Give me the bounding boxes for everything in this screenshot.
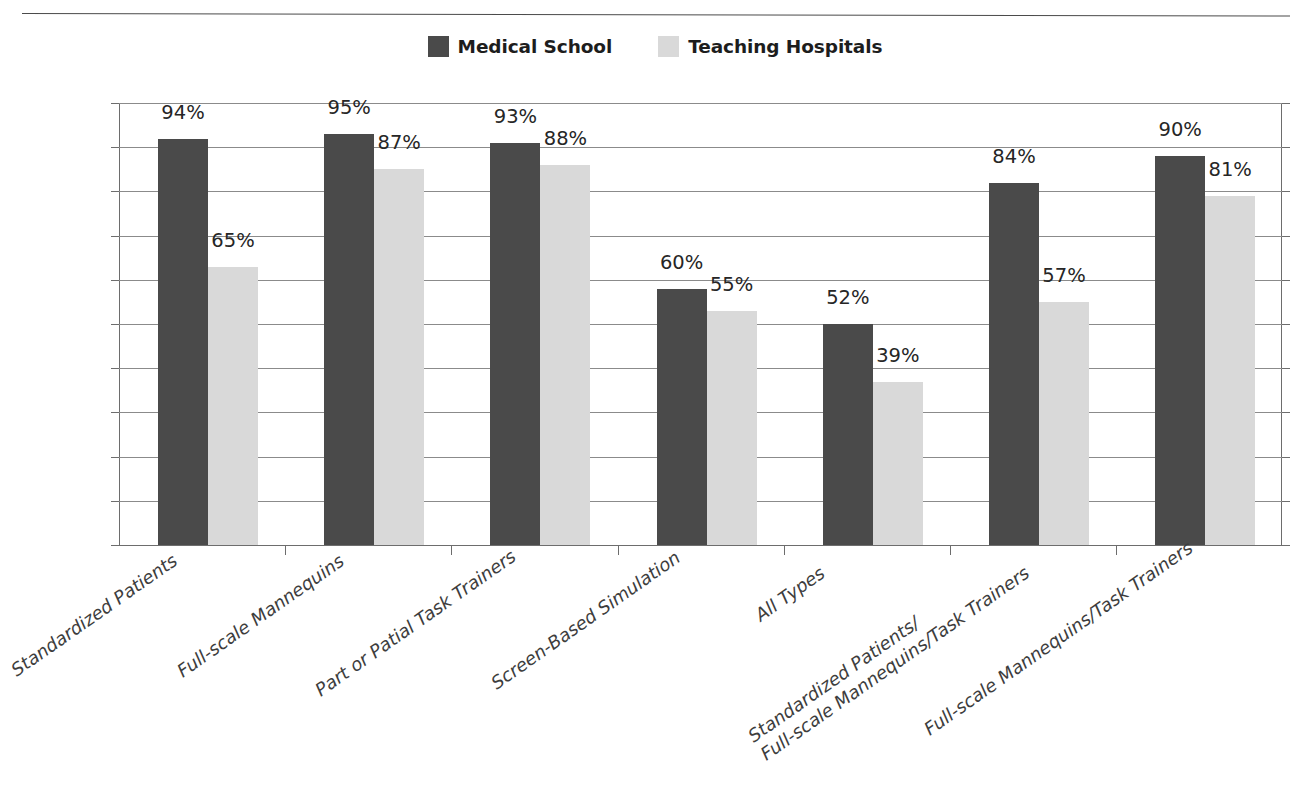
clipped-caption-text [172, 1, 1072, 16]
bar-teaching-hospitals[interactable] [1205, 196, 1255, 545]
bar-medical-school[interactable] [158, 139, 208, 545]
bar-value-label: 65% [200, 229, 266, 252]
y-axis-tick-right [1282, 191, 1290, 192]
bar-teaching-hospitals[interactable] [208, 267, 258, 545]
page-top-rule [22, 13, 1290, 16]
x-axis-label-line: Full-scale Mannequins [173, 550, 348, 682]
bar-teaching-hospitals[interactable] [1039, 302, 1089, 545]
x-axis-tick [950, 545, 951, 555]
y-axis-tick [111, 545, 119, 546]
legend-label-medical-school: Medical School [458, 36, 613, 57]
y-axis-tick-right [1282, 280, 1290, 281]
y-axis-tick [111, 412, 119, 413]
bar-value-label: 84% [981, 145, 1047, 168]
y-axis-tick [111, 191, 119, 192]
y-axis-tick-right [1282, 368, 1290, 369]
y-axis-tick [111, 324, 119, 325]
x-axis-label-line: Standardized Patients [7, 550, 182, 681]
gridline [119, 191, 1282, 192]
legend-entry-medical-school[interactable]: Medical School [428, 36, 613, 57]
chart-legend: Medical School Teaching Hospitals [0, 36, 1310, 57]
x-axis-category-label[interactable]: Screen-Based Simulation [487, 547, 684, 694]
x-axis-category-label[interactable]: Standardized Patients [7, 550, 182, 681]
y-axis-tick-right [1282, 147, 1290, 148]
x-axis-tick [618, 545, 619, 555]
x-axis-label-line: Standardized Patients/ [744, 544, 1021, 747]
gridline [119, 147, 1282, 148]
x-axis-label-line: Full-scale Mannequins/Task Trainers [920, 537, 1197, 740]
y-axis-tick-right [1282, 103, 1290, 104]
bar-value-label: 94% [150, 101, 216, 124]
y-axis-tick [111, 368, 119, 369]
x-axis-category-label[interactable]: Full-scale Mannequins [173, 550, 348, 682]
x-axis-label-line: Screen-Based Simulation [487, 547, 684, 694]
x-axis-label-line: All Types [751, 562, 829, 626]
bar-value-label: 52% [815, 286, 881, 309]
y-axis-tick [111, 457, 119, 458]
bar-medical-school[interactable] [657, 289, 707, 545]
gridline [119, 103, 1282, 104]
bar-value-label: 60% [649, 251, 715, 274]
bar-value-label: 95% [316, 96, 382, 119]
y-axis-tick [111, 147, 119, 148]
chart-page: Medical School Teaching Hospitals 100%90… [0, 0, 1310, 787]
gridline [119, 236, 1282, 237]
y-axis-tick [111, 501, 119, 502]
bar-value-label: 39% [865, 344, 931, 367]
x-axis-category-label[interactable]: Full-scale Mannequins/Task Trainers [920, 537, 1197, 740]
bar-value-label: 57% [1031, 264, 1097, 287]
x-axis-category-label[interactable]: Standardized Patients/Full-scale Mannequ… [744, 544, 1034, 765]
bar-value-label: 81% [1197, 158, 1263, 181]
bar-value-label: 87% [366, 131, 432, 154]
x-axis-tick [784, 545, 785, 555]
bar-value-label: 55% [699, 273, 765, 296]
bar-teaching-hospitals[interactable] [873, 382, 923, 545]
legend-label-teaching-hospitals: Teaching Hospitals [688, 36, 882, 57]
bar-teaching-hospitals[interactable] [707, 311, 757, 545]
bar-medical-school[interactable] [324, 134, 374, 545]
y-axis-tick-right [1282, 501, 1290, 502]
bar-teaching-hospitals[interactable] [540, 165, 590, 545]
legend-swatch-icon [428, 36, 449, 57]
y-axis-tick [111, 103, 119, 104]
legend-entry-teaching-hospitals[interactable]: Teaching Hospitals [658, 36, 882, 57]
bar-medical-school[interactable] [490, 143, 540, 545]
x-axis-tick [285, 545, 286, 555]
y-axis-tick [111, 280, 119, 281]
x-axis-category-label[interactable]: All Types [751, 562, 829, 626]
x-axis-tick [1116, 545, 1117, 555]
bar-value-label: 88% [532, 127, 598, 150]
bar-value-label: 90% [1147, 118, 1213, 141]
y-axis-tick-right [1282, 545, 1290, 546]
gridline [119, 545, 1282, 546]
y-axis-tick-right [1282, 457, 1290, 458]
y-axis-tick-right [1282, 412, 1290, 413]
y-axis-tick-right [1282, 324, 1290, 325]
bar-value-label: 93% [482, 105, 548, 128]
y-axis-tick-right [1282, 236, 1290, 237]
plot-area: 100%90%80%70%60%50%40%30%20%10%0% 94%65%… [119, 103, 1282, 545]
x-axis-tick [451, 545, 452, 555]
bar-medical-school[interactable] [989, 183, 1039, 545]
bar-medical-school[interactable] [1155, 156, 1205, 545]
legend-swatch-icon [658, 36, 679, 57]
bar-teaching-hospitals[interactable] [374, 169, 424, 545]
y-axis-tick [111, 236, 119, 237]
